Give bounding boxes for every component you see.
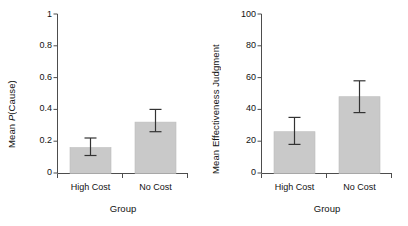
x-category-label-high-cost: High Cost (60, 182, 121, 192)
chart-panel-mean-p-cause: Mean P(Cause) 1 0.8 0.6 0.4 0.2 0 (0, 0, 204, 226)
x-category-label-high-cost: High Cost (264, 182, 325, 192)
chart-panel-mean-effectiveness-judgment: Mean Effectiveness Judgment 100 80 60 40… (204, 0, 408, 226)
x-axis-title: Group (58, 203, 188, 214)
x-category-label-no-cost: No Cost (125, 182, 186, 192)
plot-area-right (204, 0, 408, 226)
x-axis-title: Group (262, 203, 392, 214)
x-category-label-no-cost: No Cost (329, 182, 390, 192)
figure-two-panel-bar-charts: Mean P(Cause) 1 0.8 0.6 0.4 0.2 0 (0, 0, 408, 226)
plot-area-left (0, 0, 204, 226)
